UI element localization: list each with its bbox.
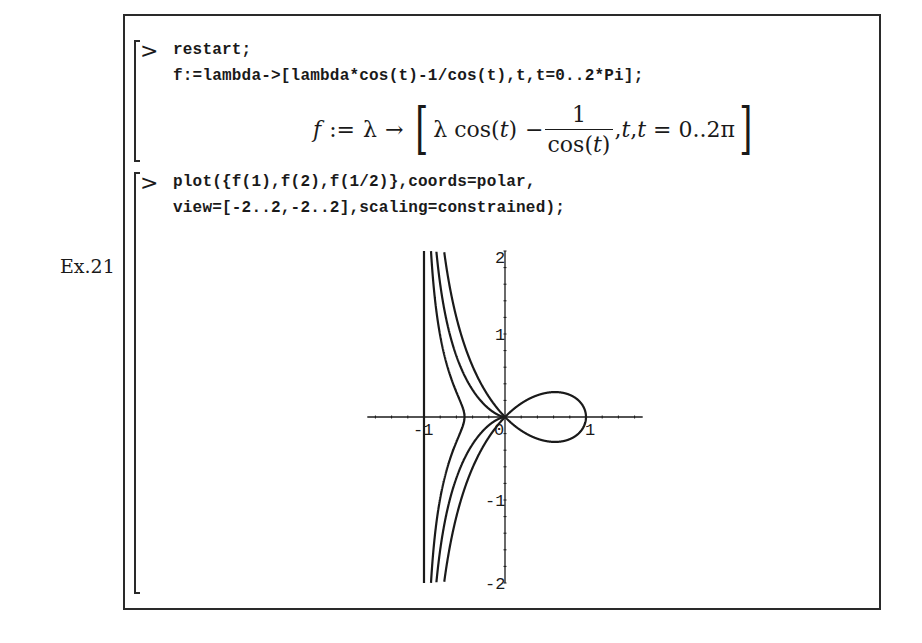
math-term1-var: t — [500, 117, 509, 142]
input-prompt-1: > — [140, 40, 158, 62]
math-fraction: 1 cos(t) — [548, 102, 611, 157]
y-tick-label: 2 — [495, 249, 505, 268]
polar-plot[interactable]: -10121-1-2 — [355, 236, 655, 601]
math-lambda: λ — [363, 117, 377, 142]
math-term1: λ cos( — [433, 117, 499, 142]
input-line-2-2[interactable]: view=[-2..2,-2..2],scaling=constrained); — [173, 199, 565, 217]
math-range: = 0..2π — [646, 117, 735, 142]
input-line-1-2[interactable]: f:=lambda->[lambda*cos(t)-1/cos(t),t,t=0… — [173, 67, 643, 85]
x-tick-label: -1 — [413, 421, 433, 440]
math-t-2: t — [637, 117, 646, 142]
math-f: f — [313, 117, 321, 142]
execution-group-bracket-2[interactable] — [134, 172, 140, 594]
math-term1-close: ) — [509, 117, 518, 142]
math-comma-2: , — [630, 117, 637, 142]
math-t-1: t — [621, 117, 630, 142]
input-prompt-2: > — [140, 172, 158, 194]
y-tick-label: 1 — [495, 326, 505, 345]
y-tick-label: -2 — [485, 575, 505, 594]
math-open-bracket: [ — [416, 101, 429, 157]
math-frac-denominator: cos(t) — [548, 130, 611, 157]
input-line-1-1[interactable]: restart; — [173, 41, 251, 59]
math-close-bracket: ] — [739, 101, 752, 157]
x-tick-label: 0 — [494, 421, 504, 440]
math-arrow: → — [385, 117, 403, 142]
math-comma-1: , — [614, 117, 621, 142]
y-tick-label: -1 — [485, 492, 505, 511]
x-tick-label: 1 — [585, 421, 595, 440]
math-minus: − — [525, 117, 543, 142]
output-math-1: f := λ → [ λ cos(t) − 1 cos(t) , t , t =… — [313, 96, 757, 162]
exercise-label: Ex.21 — [60, 255, 115, 277]
math-assign: := — [329, 117, 355, 142]
input-line-2-1[interactable]: plot({f(1),f(2),f(1/2)},coords=polar, — [173, 173, 536, 191]
math-frac-numerator: 1 — [545, 102, 614, 130]
